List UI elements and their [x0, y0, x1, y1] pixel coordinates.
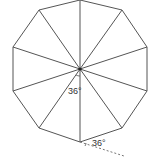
center-angle-arc	[76, 75, 80, 76]
exterior-angle-label: 36°	[92, 138, 106, 148]
decagon-diagram: 36° 36°	[0, 0, 152, 161]
center-angle-label: 36°	[68, 86, 82, 96]
center-point	[79, 68, 82, 71]
